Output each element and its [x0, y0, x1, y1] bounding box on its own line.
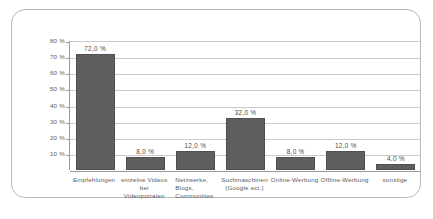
axis-baseline [70, 171, 421, 172]
y-tick-mark [66, 74, 70, 75]
y-tick-label: 10 % [31, 151, 65, 157]
y-tick-mark [66, 123, 70, 124]
bar [76, 54, 115, 170]
x-category-label: einzelne Videosbei Videoportalen [119, 176, 169, 201]
x-category-label: Online-Werbung [270, 176, 320, 184]
bar [376, 164, 415, 170]
y-tick-label: 60 % [31, 70, 65, 76]
gridline [70, 90, 421, 91]
bar-value-label: 4,0 % [371, 156, 421, 162]
gridline [70, 107, 421, 108]
y-tick-label: 50 % [31, 86, 65, 92]
bar [126, 157, 165, 170]
gridline [70, 74, 421, 75]
y-tick-mark [66, 58, 70, 59]
y-tick-mark [66, 155, 70, 156]
bar-value-label: 72,0 % [70, 46, 120, 52]
y-tick-mark [66, 90, 70, 91]
y-tick-mark [66, 107, 70, 108]
y-tick-label: 20 % [31, 135, 65, 141]
x-category-label: Empfehlungen [69, 176, 119, 184]
x-category-label: Suchmaschinen(Google ect.) [219, 176, 269, 192]
y-tick-label: 70 % [31, 54, 65, 60]
chart-frame: 10 %20 %30 %40 %50 %60 %70 %80 % 72,0 %8… [11, 9, 421, 198]
bar [226, 118, 265, 170]
bar-value-label: 8,0 % [271, 149, 321, 155]
y-tick-label: 40 % [31, 102, 65, 108]
x-category-label: sonstige [370, 176, 420, 184]
y-axis: 10 %20 %30 %40 %50 %60 %70 %80 % [26, 10, 65, 219]
y-tick-label: 80 % [31, 38, 65, 44]
bar [326, 151, 365, 170]
y-tick-mark [66, 42, 70, 43]
x-category-label: Netzwerke,Blogs,Communities [169, 176, 219, 201]
x-axis-categories: Empfehlungeneinzelne Videosbei Videoport… [69, 176, 420, 219]
bar-value-label: 12,0 % [321, 143, 371, 149]
bar-value-label: 32,0 % [220, 110, 270, 116]
bar-value-label: 8,0 % [120, 149, 170, 155]
y-tick-mark [66, 139, 70, 140]
x-category-label: Offline-Werbung [320, 176, 370, 184]
bar [176, 151, 215, 170]
gridline [70, 58, 421, 59]
bar [276, 157, 315, 170]
plot-area: 72,0 %8,0 %12,0 %32,0 %8,0 %12,0 %4,0 % [69, 41, 420, 170]
bar-value-label: 12,0 % [170, 143, 220, 149]
y-tick-label: 30 % [31, 119, 65, 125]
